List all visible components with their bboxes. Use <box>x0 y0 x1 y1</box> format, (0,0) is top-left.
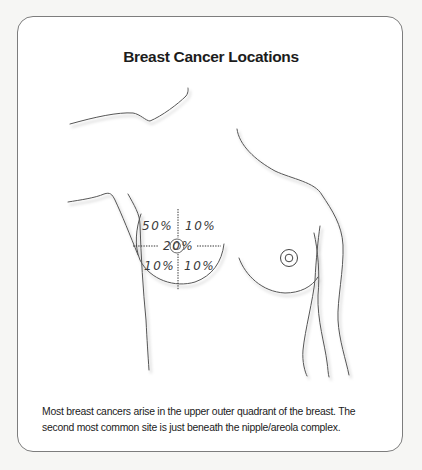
right-breast-outline <box>239 258 318 293</box>
right-torso-line-a <box>303 226 320 376</box>
quadrant-upper-inner-label: 10% <box>185 219 216 233</box>
left-shoulder-line <box>70 88 188 124</box>
right-shoulder-line <box>237 129 349 375</box>
quadrant-upper-outer-label: 50% <box>142 219 173 233</box>
caption-line-1: Most breast cancers arise in the upper o… <box>42 404 392 420</box>
quadrant-lower-outer-label: 10% <box>144 259 175 273</box>
figure-caption: Most breast cancers arise in the upper o… <box>42 404 392 436</box>
torso-illustration: 50% 10% 20% 10% 10% <box>0 0 422 470</box>
quadrant-lower-inner-label: 10% <box>184 259 215 273</box>
caption-line-2: second most common site is just beneath … <box>42 420 392 436</box>
right-nipple-icon <box>281 250 298 267</box>
quadrant-central-label: 20% <box>163 239 194 253</box>
left-armpit-line <box>68 193 138 255</box>
